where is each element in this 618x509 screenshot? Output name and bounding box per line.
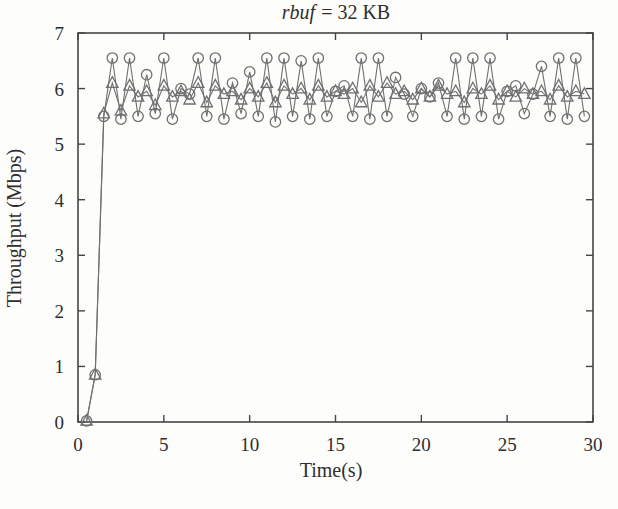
x-tick-label: 20 <box>412 434 431 455</box>
x-axis-label: Time(s) <box>300 459 363 482</box>
x-tick-label: 5 <box>159 434 169 455</box>
circle-marker-series-line <box>87 58 585 421</box>
throughput-chart: rbuf= 32 KB Throughput (Mbps) Time(s) 05… <box>0 0 618 509</box>
chart-title: rbuf= 32 KB <box>282 1 390 24</box>
chart-figure: rbuf= 32 KB Throughput (Mbps) Time(s) 05… <box>0 0 618 509</box>
y-tick-label: 0 <box>55 412 65 433</box>
circle-marker-series <box>81 53 589 426</box>
x-tick-label: 0 <box>73 434 83 455</box>
x-tick-label: 25 <box>498 434 517 455</box>
y-tick-label: 7 <box>55 23 65 44</box>
x-tick-label: 15 <box>326 434 345 455</box>
y-tick-label: 3 <box>55 245 65 266</box>
y-tick-label: 1 <box>55 356 65 377</box>
y-tick-label: 6 <box>55 79 65 100</box>
x-tick-label: 10 <box>240 434 259 455</box>
y-tick-label: 5 <box>55 134 65 155</box>
y-tick-label: 2 <box>55 301 65 322</box>
y-axis-label: Throughput (Mbps) <box>3 149 26 307</box>
triangle-marker-series <box>81 77 590 425</box>
chart-title-value: = 32 KB <box>321 1 390 23</box>
x-tick-label: 30 <box>584 434 603 455</box>
triangle-marker-series-line <box>87 83 585 421</box>
y-tick-label: 4 <box>55 190 65 211</box>
chart-title-variable: rbuf <box>282 1 318 24</box>
data-series <box>81 53 590 426</box>
